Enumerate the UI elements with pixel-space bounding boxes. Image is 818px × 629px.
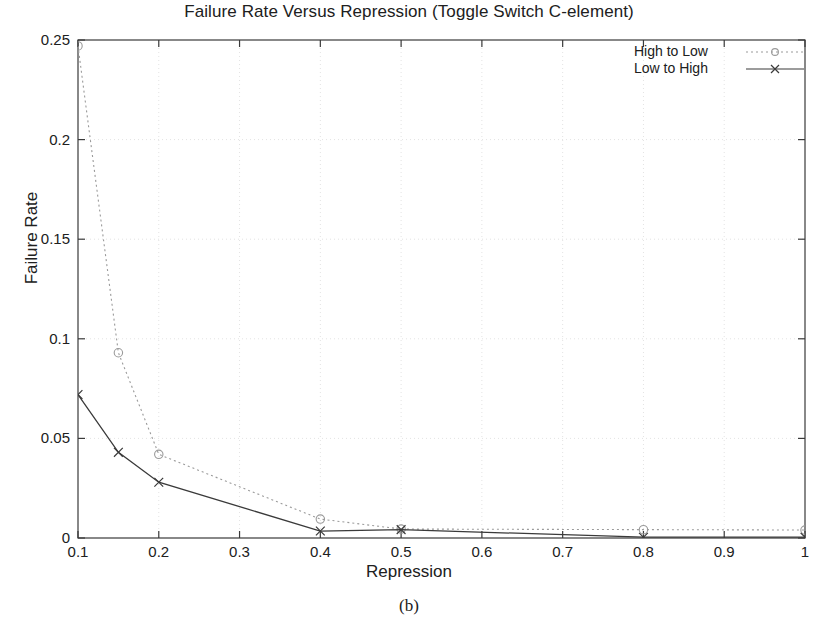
plot-frame [78,40,805,538]
series-low-to-high [74,390,810,541]
x-tick-label: 0.8 [613,544,673,559]
gridlines [78,40,805,538]
series-high-to-low [74,42,809,534]
y-axis-title: Failure Rate [22,158,42,318]
x-tick-label: 0.4 [290,544,350,559]
x-tick-label: 0.9 [694,544,754,559]
x-tick-label: 0.3 [210,544,270,559]
legend-sample-high-to-low [744,43,806,60]
y-tick-label: 0.2 [10,132,70,147]
x-tick-label: 0.7 [533,544,593,559]
x-tick-label: 0.1 [48,544,108,559]
plot-canvas [0,0,818,629]
legend-item-low-to-high: Low to High [634,60,806,77]
legend-label-low-to-high: Low to High [634,60,708,77]
chart-legend: High to Low Low to High [634,43,806,77]
figure-container: Failure Rate Versus Repression (Toggle S… [0,0,818,629]
legend-label-high-to-low: High to Low [634,43,708,60]
axis-ticks [78,40,805,538]
x-tick-label: 1 [775,544,818,559]
x-tick-label: 0.2 [129,544,189,559]
x-axis-title: Repression [0,562,818,582]
y-tick-label: 0.05 [10,430,70,445]
legend-sample-low-to-high [744,60,806,77]
data-series-layer [74,42,810,542]
y-tick-label: 0 [10,530,70,545]
legend-item-high-to-low: High to Low [634,43,806,60]
x-tick-label: 0.5 [371,544,431,559]
y-tick-label: 0.1 [10,331,70,346]
x-tick-label: 0.6 [452,544,512,559]
y-tick-label: 0.25 [10,32,70,47]
figure-caption: (b) [0,596,818,616]
